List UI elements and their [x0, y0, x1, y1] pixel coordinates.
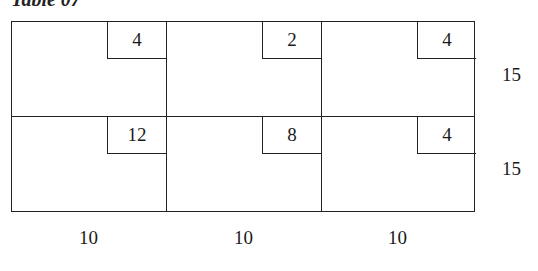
- column-total-1: 10: [79, 227, 98, 249]
- cost-cell-r1-c3: 4: [417, 22, 476, 59]
- row-total-1: 15: [502, 64, 521, 86]
- cost-cell-r1-c2: 2: [262, 22, 321, 59]
- cost-cell-r2-c1: 12: [107, 117, 166, 154]
- transportation-table: 4 2 4 12 8 4: [11, 21, 475, 212]
- table-title: Table 07: [11, 0, 81, 11]
- cost-cell-r1-c1: 4: [107, 22, 166, 59]
- row-divider: [12, 116, 474, 117]
- row-total-2: 15: [502, 158, 521, 180]
- column-total-3: 10: [388, 227, 407, 249]
- column-total-2: 10: [234, 227, 253, 249]
- cost-cell-r2-c2: 8: [262, 117, 321, 154]
- cost-cell-r2-c3: 4: [417, 117, 476, 154]
